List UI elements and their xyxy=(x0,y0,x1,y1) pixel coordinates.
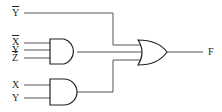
label-ybar-top: Y xyxy=(12,8,19,18)
label-output-f: F xyxy=(208,47,214,57)
label-x-and2: X xyxy=(12,80,19,90)
and-gate-1 xyxy=(50,39,73,64)
or-gate xyxy=(138,40,167,65)
logic-circuit xyxy=(0,0,222,112)
wire-and2-out xyxy=(77,60,141,92)
wire-ybar xyxy=(24,13,141,45)
label-zbar-and1: Z xyxy=(12,53,18,63)
label-y-and2: Y xyxy=(12,93,19,103)
and-gate-2 xyxy=(50,79,77,105)
